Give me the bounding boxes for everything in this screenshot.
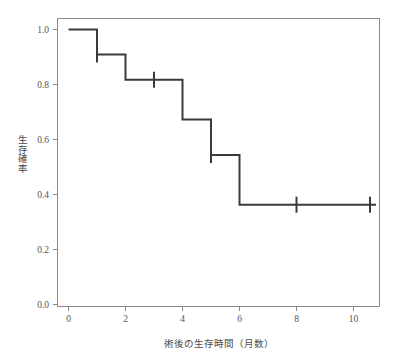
y-tick-label-0.2: 0.2 <box>37 245 49 255</box>
y-axis-title-char-4: 率 <box>18 164 28 174</box>
x-tick-label-4: 4 <box>180 314 185 324</box>
x-axis-title: 術後の生存時間（月数） <box>164 338 274 349</box>
y-axis-title: 生 存 確 率 <box>18 135 28 174</box>
survival-chart-figure: 1.0 0.8 0.6 0.4 0.2 0.0 0 2 4 6 8 10 <box>0 0 404 364</box>
x-tick-label-0: 0 <box>66 314 71 324</box>
y-tick-label-0.0: 0.0 <box>37 300 49 310</box>
x-tick-label-6: 6 <box>237 314 242 324</box>
y-tick-label-1.0: 1.0 <box>37 25 49 35</box>
y-tick-label-0.4: 0.4 <box>37 190 49 200</box>
chart-background <box>0 0 404 364</box>
x-tick-label-10: 10 <box>349 314 359 324</box>
y-tick-label-0.8: 0.8 <box>37 80 49 90</box>
x-tick-label-2: 2 <box>123 314 128 324</box>
y-tick-label-0.6: 0.6 <box>37 135 49 145</box>
kaplan-meier-plot: 1.0 0.8 0.6 0.4 0.2 0.0 0 2 4 6 8 10 <box>0 0 404 364</box>
x-tick-label-8: 8 <box>294 314 299 324</box>
